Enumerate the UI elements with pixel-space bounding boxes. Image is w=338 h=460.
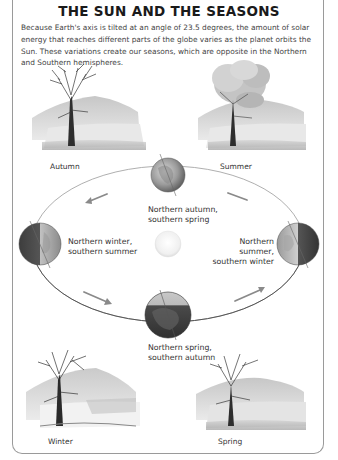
arrow-bottom-right-icon	[235, 287, 265, 301]
orbit-label-bottom: Northern spring, southern autumn	[148, 343, 215, 363]
orbit-label-top: Northern autumn, southern spring	[148, 205, 218, 225]
arrow-top-right-icon	[218, 189, 247, 200]
scene-caption-autumn: Autumn	[50, 162, 80, 171]
globe-left-icon	[19, 221, 61, 268]
winter-scene-illustration	[26, 350, 140, 428]
globe-top-icon	[151, 154, 185, 196]
arrow-top-left-icon	[85, 194, 107, 204]
scene-caption-spring: Spring	[218, 437, 242, 446]
scene-caption-summer: Summer	[220, 162, 252, 171]
orbit-label-left: Northern winter, southern summer	[68, 237, 137, 257]
seasons-diagram	[0, 0, 338, 460]
arrow-bottom-left-icon	[84, 292, 112, 305]
orbit-label-right: Northern summer, southern winter	[210, 237, 274, 267]
spring-scene-illustration	[196, 354, 306, 430]
sun-icon	[155, 231, 181, 257]
globe-bottom-icon	[145, 290, 191, 340]
summer-scene-illustration	[198, 60, 306, 150]
scene-caption-winter: Winter	[48, 437, 73, 446]
autumn-scene-illustration	[32, 64, 146, 150]
globe-right-icon	[277, 221, 319, 268]
